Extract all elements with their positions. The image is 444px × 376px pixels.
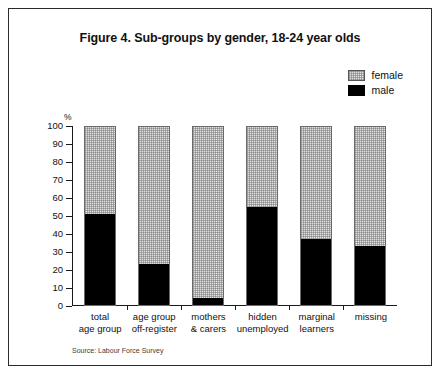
bar-segment-male[interactable]: [85, 214, 115, 305]
x-axis-label-line: total: [73, 311, 127, 323]
stacked-bar[interactable]: [354, 126, 386, 306]
x-axis-label-line: missing: [344, 311, 398, 323]
y-axis-tick: 0: [66, 306, 72, 307]
bar-slot: [235, 126, 289, 306]
bar-slot: [127, 126, 181, 306]
bar-segment-male[interactable]: [193, 298, 223, 305]
x-axis-tick: [343, 306, 344, 310]
x-axis-label-line: & carers: [181, 323, 235, 335]
y-axis-tick-label: 60: [52, 192, 63, 203]
x-axis-tick: [235, 306, 236, 310]
bar-slot: [181, 126, 235, 306]
x-axis-label: missing: [344, 311, 398, 335]
x-axis-tick: [181, 306, 182, 310]
y-axis-tick-label: 40: [52, 228, 63, 239]
y-axis-tick: 100: [66, 126, 72, 127]
x-axis-label-line: age group: [127, 311, 181, 323]
x-axis-label-line: unemployed: [236, 323, 290, 335]
y-axis-tick: 40: [66, 234, 72, 235]
y-axis-tick: 50: [66, 216, 72, 217]
x-axis-label: hiddenunemployed: [236, 311, 290, 335]
x-axis-labels: totalage groupage groupoff-registermothe…: [73, 311, 398, 335]
legend-label-male: male: [371, 84, 394, 96]
stacked-bar[interactable]: [300, 126, 332, 306]
y-axis-tick-label: 50: [52, 210, 63, 221]
x-axis-tick: [289, 306, 290, 310]
bar-segment-male[interactable]: [301, 239, 331, 305]
legend-label-female: female: [371, 69, 403, 81]
bar-slot: [343, 126, 397, 306]
x-axis-label: age groupoff-register: [127, 311, 181, 335]
y-axis-tick: 10: [66, 288, 72, 289]
figure-frame: Figure 4. Sub-groups by gender, 18-24 ye…: [8, 8, 432, 366]
y-axis-tick: 80: [66, 162, 72, 163]
legend-item-male: male: [348, 84, 403, 96]
x-axis-label: mothers& carers: [181, 311, 235, 335]
plot-area: 1009080706050403020100: [72, 126, 397, 306]
bar-segment-male[interactable]: [139, 264, 169, 305]
y-axis-tick-label: 30: [52, 246, 63, 257]
legend-item-female: female: [348, 69, 403, 81]
bar-slot: [289, 126, 343, 306]
chart-title: Figure 4. Sub-groups by gender, 18-24 ye…: [9, 31, 431, 45]
x-axis-label-line: off-register: [127, 323, 181, 335]
stacked-bar[interactable]: [192, 126, 224, 306]
bar-segment-male[interactable]: [247, 207, 277, 305]
source-note: Source: Labour Force Survey: [72, 347, 163, 354]
x-axis-label-line: learners: [290, 323, 344, 335]
x-axis-label-line: marginal: [290, 311, 344, 323]
bar-group: [73, 126, 397, 306]
stacked-bar[interactable]: [246, 126, 278, 306]
y-axis-tick-label: 70: [52, 174, 63, 185]
x-axis-tick: [127, 306, 128, 310]
x-axis-label-line: age group: [73, 323, 127, 335]
legend-swatch-male-icon: [348, 85, 365, 96]
y-axis-tick: 90: [66, 144, 72, 145]
y-axis-tick-label: 10: [52, 282, 63, 293]
y-axis-tick: 30: [66, 252, 72, 253]
y-axis-tick: 20: [66, 270, 72, 271]
x-axis-label: marginallearners: [290, 311, 344, 335]
x-axis-label-line: hidden: [236, 311, 290, 323]
chart-legend: female male: [348, 69, 403, 96]
bar-slot: [73, 126, 127, 306]
bar-segment-male[interactable]: [355, 246, 385, 305]
y-axis-tick-label: 80: [52, 156, 63, 167]
y-axis-tick: 70: [66, 180, 72, 181]
y-axis-tick-label: 20: [52, 264, 63, 275]
y-axis-tick-label: 90: [52, 138, 63, 149]
y-axis-tick-label: 0: [58, 300, 63, 311]
x-axis-label: totalage group: [73, 311, 127, 335]
y-axis-tick-label: 100: [47, 120, 63, 131]
legend-swatch-female-icon: [348, 70, 365, 81]
x-axis-label-line: mothers: [181, 311, 235, 323]
y-axis-unit-label: %: [64, 112, 72, 122]
stacked-bar[interactable]: [138, 126, 170, 306]
stacked-bar[interactable]: [84, 126, 116, 306]
y-axis-tick: 60: [66, 198, 72, 199]
